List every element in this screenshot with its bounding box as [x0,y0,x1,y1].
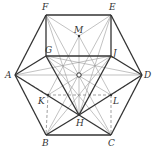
label-E: E [108,2,116,12]
thin-segment-EM [79,15,111,36]
label-B: B [41,138,49,148]
geometry-figure: FEADBCGJMKLH [0,0,155,150]
center-point [77,73,81,77]
label-J: J [111,48,118,58]
points [47,35,112,96]
point-L [110,94,112,96]
hexagon-diagram: FEADBCGJMKLH [0,0,155,150]
label-M: M [73,25,84,35]
label-K: K [37,96,46,106]
label-H: H [75,118,84,128]
label-G: G [45,45,52,55]
label-C: C [108,138,115,148]
label-D: D [143,70,151,80]
label-L: L [112,96,119,106]
edge-BH [46,115,79,135]
dashed-segment-KB [46,95,48,135]
label-A: A [4,70,12,80]
point-K [47,94,49,96]
label-F: F [41,2,49,12]
point-M [78,35,80,37]
